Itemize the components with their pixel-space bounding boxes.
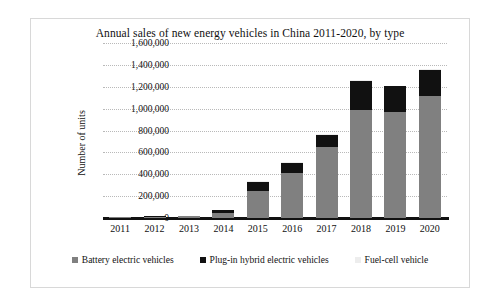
x-axis-tick-label: 2016 (275, 223, 309, 234)
bar-group[interactable] (247, 181, 269, 218)
y-axis-title: Number of units (76, 110, 87, 176)
bar-group[interactable] (316, 134, 338, 218)
legend-item[interactable]: Battery electric vehicles (72, 255, 174, 265)
black-square-swatch (200, 257, 206, 263)
bar-segment[interactable] (350, 81, 372, 111)
legend-label: Fuel-cell vehicle (365, 255, 429, 265)
bar-segment[interactable] (384, 86, 406, 111)
bar-segment[interactable] (419, 96, 441, 218)
plot-area: Number of units 0200,000400,000600,00080… (103, 43, 447, 242)
bar-segment[interactable] (178, 216, 200, 218)
chart-legend: Battery electric vehiclesPlug-in hybrid … (31, 255, 469, 265)
bar-segment[interactable] (384, 112, 406, 218)
x-axis-tick-label: 2017 (310, 223, 344, 234)
x-axis-tick-label: 2014 (206, 223, 240, 234)
x-axis-tick-labels: 2011201220132014201520162017201820192020 (103, 223, 447, 241)
legend-item[interactable]: Fuel-cell vehicle (355, 255, 429, 265)
bar-group[interactable] (212, 210, 234, 218)
bar-segment[interactable] (247, 191, 269, 218)
bar-segment[interactable] (316, 135, 338, 147)
x-axis-tick-label: 2011 (103, 223, 137, 234)
bar-segment[interactable] (316, 147, 338, 218)
bar-segment[interactable] (212, 213, 234, 218)
bar-group[interactable] (178, 216, 200, 218)
bar-segment[interactable] (281, 173, 303, 218)
bar-group[interactable] (419, 69, 441, 218)
bar-group[interactable] (350, 80, 372, 218)
bar-group[interactable] (144, 216, 166, 218)
bar-segment[interactable] (247, 182, 269, 191)
bar-segment[interactable] (350, 110, 372, 218)
chart-figure: Annual sales of new energy vehicles in C… (30, 18, 470, 288)
gray-square-swatch (72, 257, 78, 263)
x-axis-tick-label: 2012 (138, 223, 172, 234)
x-axis-tick-label: 2020 (413, 223, 447, 234)
bar-series-container (103, 43, 447, 218)
bar-group[interactable] (109, 217, 131, 218)
legend-item[interactable]: Plug-in hybrid electric vehicles (200, 255, 329, 265)
bar-segment[interactable] (419, 70, 441, 96)
x-axis-tick-label: 2019 (378, 223, 412, 234)
value-band: 0200,000400,000600,000800,0001,000,0001,… (103, 43, 447, 218)
bar-group[interactable] (281, 162, 303, 218)
x-axis-tick-label: 2015 (241, 223, 275, 234)
legend-label: Battery electric vehicles (82, 255, 174, 265)
bar-segment[interactable] (144, 217, 166, 218)
legend-label: Plug-in hybrid electric vehicles (210, 255, 329, 265)
bar-segment[interactable] (109, 217, 131, 218)
x-axis-tick-label: 2013 (172, 223, 206, 234)
x-axis-tick-label: 2018 (344, 223, 378, 234)
bar-group[interactable] (384, 86, 406, 218)
bar-segment[interactable] (281, 163, 303, 174)
chart-title: Annual sales of new energy vehicles in C… (31, 27, 469, 39)
light-gray-square-swatch (355, 257, 361, 263)
